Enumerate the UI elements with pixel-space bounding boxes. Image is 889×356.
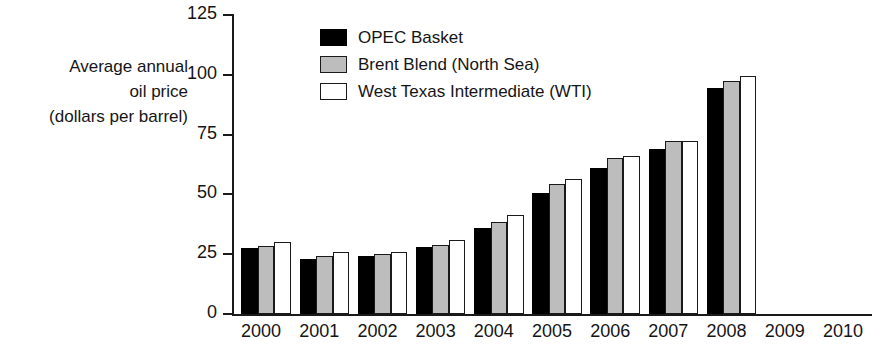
y-axis-caption-line-3: (dollars per barrel): [8, 104, 188, 129]
x-axis-tick-label: 2000: [232, 320, 290, 342]
bar: [649, 149, 666, 314]
bar-group: [823, 15, 873, 314]
bar: [549, 184, 566, 314]
y-axis-tick-label: 100: [187, 63, 217, 83]
bar: [565, 179, 582, 314]
bar-group: [707, 15, 757, 314]
bar: [740, 76, 757, 314]
bar: [665, 141, 682, 314]
y-axis-tick: 0: [223, 313, 234, 315]
bar-group: [241, 15, 291, 314]
y-axis-tick-label: 25: [197, 242, 217, 262]
x-axis-tick-label: 2005: [523, 320, 581, 342]
x-axis-tick-label: 2010: [814, 320, 872, 342]
bar: [507, 215, 524, 314]
x-axis-tick-label: 2007: [639, 320, 697, 342]
bar: [258, 246, 275, 314]
bar: [274, 242, 291, 314]
bar-group: [300, 15, 350, 314]
y-axis-tick: 50: [223, 193, 234, 195]
y-axis-tick-label: 125: [187, 3, 217, 23]
x-axis-tick-label: 2002: [348, 320, 406, 342]
bar: [491, 222, 508, 314]
plot-area: 0255075100125 20002001200220032004200520…: [232, 15, 872, 316]
bar: [682, 141, 699, 314]
bar: [374, 254, 391, 314]
y-axis-tick-label: 0: [207, 302, 217, 322]
y-axis-tick: 25: [223, 253, 234, 255]
bar-group: [416, 15, 466, 314]
bar-group: [765, 15, 815, 314]
bar: [707, 88, 724, 314]
bar-group: [590, 15, 640, 314]
bar: [416, 247, 433, 314]
bar: [358, 256, 375, 314]
bar-groups: [234, 15, 872, 314]
y-axis-tick-label: 50: [197, 182, 217, 202]
bar-chart-figure: Average annual oil price (dollars per ba…: [0, 0, 889, 356]
bar-group: [649, 15, 699, 314]
y-axis-caption: Average annual oil price (dollars per ba…: [8, 54, 188, 129]
y-axis-tick: 100: [223, 74, 234, 76]
x-axis-tick-label: 2003: [407, 320, 465, 342]
y-axis-tick-label: 75: [197, 123, 217, 143]
bar: [590, 168, 607, 314]
bar: [723, 81, 740, 314]
y-axis-tick: 125: [223, 14, 234, 16]
y-axis-tick: 75: [223, 134, 234, 136]
x-axis-tick-label: 2008: [697, 320, 755, 342]
bar: [241, 248, 258, 314]
bar: [474, 228, 491, 314]
bar: [449, 240, 466, 314]
bar: [623, 156, 640, 314]
bar: [316, 256, 333, 314]
bar: [532, 193, 549, 314]
bar: [607, 158, 624, 314]
bar: [432, 245, 449, 314]
x-axis-tick-label: 2001: [290, 320, 348, 342]
x-axis-tick-label: 2009: [756, 320, 814, 342]
bar-group: [532, 15, 582, 314]
x-axis-tick-label: 2006: [581, 320, 639, 342]
x-axis-tick-label: 2004: [465, 320, 523, 342]
bar: [300, 259, 317, 314]
bar: [391, 252, 408, 314]
bar-group: [474, 15, 524, 314]
bar: [333, 252, 350, 314]
y-axis-caption-line-2: oil price: [8, 79, 188, 104]
bar-group: [358, 15, 408, 314]
y-axis-caption-line-1: Average annual: [8, 54, 188, 79]
x-axis-line: [232, 314, 872, 316]
